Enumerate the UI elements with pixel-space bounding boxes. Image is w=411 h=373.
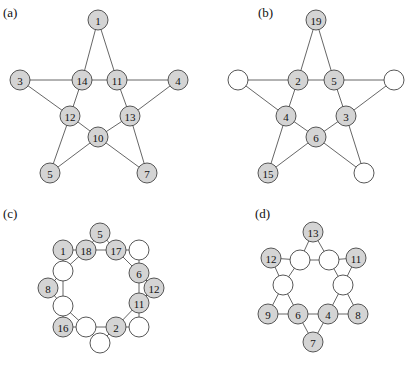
node-number: 11 bbox=[112, 75, 123, 87]
node-number: 3 bbox=[17, 75, 23, 87]
node-empty bbox=[53, 261, 73, 281]
node-number: 8 bbox=[355, 309, 361, 321]
panel-c: (c)511817681211162 bbox=[3, 206, 164, 353]
node-empty bbox=[354, 163, 374, 183]
node-empty bbox=[384, 70, 404, 90]
node-number: 17 bbox=[111, 245, 123, 257]
panel-label: (b) bbox=[258, 5, 273, 20]
node-number: 9 bbox=[265, 309, 271, 321]
node-number: 8 bbox=[45, 283, 51, 295]
node-number: 5 bbox=[331, 75, 337, 87]
node-number: 2 bbox=[295, 75, 301, 87]
panel-label: (c) bbox=[3, 206, 17, 221]
nodes: 131411412131057 bbox=[10, 10, 188, 183]
node-number: 7 bbox=[310, 337, 316, 349]
node-empty bbox=[129, 317, 149, 337]
node-number: 6 bbox=[295, 309, 301, 321]
node-number: 1 bbox=[95, 15, 101, 27]
node-number: 11 bbox=[134, 298, 145, 310]
node-number: 12 bbox=[266, 253, 277, 265]
node-number: 11 bbox=[351, 253, 362, 265]
node-number: 1 bbox=[60, 245, 66, 257]
node-number: 2 bbox=[113, 322, 119, 334]
node-number: 14 bbox=[77, 75, 89, 87]
node-empty bbox=[90, 333, 110, 353]
node-number: 7 bbox=[144, 168, 150, 180]
node-empty bbox=[319, 250, 339, 270]
node-empty bbox=[290, 250, 310, 270]
panel-a: (a)131411412131057 bbox=[3, 5, 188, 183]
node-empty bbox=[76, 317, 96, 337]
node-number: 13 bbox=[125, 111, 137, 123]
panel-b: (b)192543615 bbox=[228, 5, 404, 183]
node-number: 3 bbox=[343, 111, 349, 123]
panel-label: (a) bbox=[3, 5, 17, 20]
node-number: 15 bbox=[263, 168, 275, 180]
node-number: 10 bbox=[93, 132, 105, 144]
node-number: 12 bbox=[65, 111, 76, 123]
nodes: 192543615 bbox=[228, 10, 404, 183]
node-number: 6 bbox=[313, 132, 319, 144]
node-number: 18 bbox=[81, 245, 93, 257]
panel-label: (d) bbox=[255, 206, 270, 221]
node-number: 12 bbox=[149, 283, 160, 295]
node-number: 19 bbox=[311, 15, 323, 27]
node-number: 5 bbox=[97, 228, 103, 240]
node-number: 16 bbox=[58, 322, 70, 334]
nodes: 511817681211162 bbox=[38, 223, 164, 353]
node-number: 6 bbox=[136, 268, 142, 280]
node-number: 4 bbox=[325, 309, 331, 321]
node-empty bbox=[53, 296, 73, 316]
graph-diagram-canvas: (a)131411412131057(b)192543615(c)5118176… bbox=[0, 0, 411, 373]
panel-d: (d)13121196487 bbox=[255, 206, 368, 352]
node-number: 4 bbox=[283, 111, 289, 123]
edges bbox=[238, 20, 394, 173]
node-number: 5 bbox=[47, 168, 53, 180]
node-empty bbox=[273, 275, 293, 295]
nodes: 13121196487 bbox=[258, 222, 368, 352]
node-empty bbox=[228, 70, 248, 90]
edges bbox=[20, 20, 178, 173]
node-empty bbox=[333, 275, 353, 295]
node-number: 4 bbox=[175, 75, 181, 87]
node-empty bbox=[129, 240, 149, 260]
node-number: 13 bbox=[308, 227, 320, 239]
